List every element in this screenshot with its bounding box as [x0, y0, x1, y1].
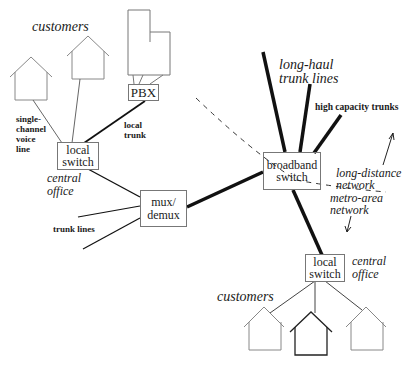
single-channel-label: single- channel voice line	[16, 114, 46, 154]
house-icon-customer-3	[244, 307, 284, 350]
local-switch-bottom-line2: switch	[306, 268, 344, 280]
customers-top-label: customers	[32, 20, 89, 34]
single-channel-line1: single-	[16, 114, 46, 124]
high-capacity-trunk	[314, 115, 341, 153]
local-trunk-line1: local	[124, 120, 146, 130]
arrow-up-icon	[383, 133, 394, 165]
office-building-icon	[128, 10, 170, 84]
broadband-switch-box: broadband switch	[263, 152, 321, 190]
trunk-line-1	[78, 206, 140, 217]
customer-line-c	[325, 281, 362, 310]
mux-demux-box: mux/ demux	[140, 190, 187, 227]
house-icon-customer-2	[67, 36, 109, 79]
voice-line-2	[72, 79, 80, 143]
metro-area-line2: network	[330, 204, 383, 216]
central-office-top-label: central office	[47, 172, 81, 198]
house-icon-customer-5	[346, 307, 386, 350]
broadband-switch-line2: switch	[264, 171, 320, 183]
mux-demux-line1: mux/	[141, 196, 186, 208]
high-capacity-trunks-label: high capacity trunks	[315, 103, 398, 113]
central-office-bottom-label: central office	[352, 255, 386, 281]
customer-line-a	[270, 281, 315, 313]
trunk-lines-label: trunk lines	[53, 225, 95, 234]
single-channel-line2: channel	[16, 124, 46, 134]
house-icon-customer-4	[290, 312, 332, 355]
mux-demux-line2: demux	[141, 209, 186, 221]
long-haul-line1: long-haul	[279, 58, 339, 72]
central-office-bottom-line2: office	[352, 268, 386, 281]
local-trunk-line2: trunk	[124, 130, 146, 140]
long-distance-label: long-distance network	[336, 167, 401, 191]
pbx-box: PBX	[128, 84, 159, 101]
switch-to-mux-line	[88, 169, 140, 197]
central-office-top-line2: office	[47, 185, 81, 198]
metro-area-label: metro-area network	[330, 192, 383, 216]
pbx-label: PBX	[129, 86, 158, 99]
local-switch-top-line2: switch	[58, 156, 98, 168]
local-trunk-label: local trunk	[124, 120, 146, 140]
local-switch-top-box: local switch	[57, 142, 99, 170]
house-icon-customer-1	[10, 57, 52, 100]
mux-to-broadband-line	[187, 172, 263, 207]
customers-bottom-label: customers	[217, 290, 274, 304]
local-switch-bottom-box: local switch	[305, 254, 345, 282]
arrow-down-icon	[345, 216, 351, 232]
long-haul-line2: trunk lines	[279, 72, 339, 86]
long-haul-trunk-2	[300, 84, 310, 152]
single-channel-line4: line	[16, 144, 46, 154]
long-haul-label: long-haul trunk lines	[279, 58, 339, 86]
long-distance-line2: network	[336, 179, 401, 191]
single-channel-line3: voice	[16, 134, 46, 144]
broadband-to-local-line	[293, 190, 322, 255]
